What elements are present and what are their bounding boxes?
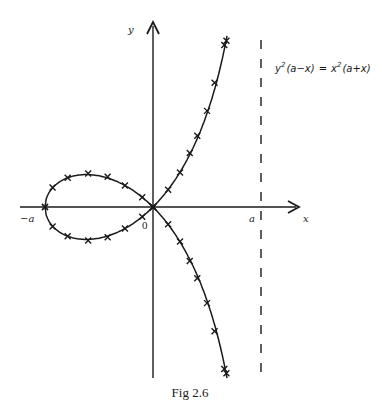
eq-rhs-exp: 2 [337, 61, 342, 69]
eq-rhs-factor: (a+x) [342, 63, 370, 74]
x-axis-label: x [303, 213, 309, 224]
curve-branch [45, 207, 153, 239]
curve-branch [153, 207, 227, 378]
figure-caption: Fig 2.6 [172, 385, 209, 400]
cross-marker-icon [139, 194, 145, 200]
pos-a-label: a [249, 213, 255, 224]
cross-marker-icon [165, 187, 171, 193]
cross-marker-icon [177, 239, 183, 245]
eq-equals: = [319, 63, 327, 74]
cross-marker-icon [177, 169, 183, 175]
curve-equation: y2(a−x)=x2(a+x) [274, 61, 371, 74]
cross-marker-icon [50, 223, 56, 229]
neg-a-label: −a [20, 213, 34, 224]
eq-lhs-exp: 2 [281, 61, 286, 69]
cross-marker-icon [122, 226, 128, 232]
origin-label: 0 [142, 219, 148, 231]
cross-marker-icon [85, 171, 91, 177]
cross-marker-icon [85, 237, 91, 243]
cross-marker-icon [50, 185, 56, 191]
eq-lhs-factor: (a−x) [286, 63, 314, 74]
curve-branch [153, 36, 227, 207]
cross-marker-icon [165, 221, 171, 227]
y-axis-label: y [127, 24, 134, 35]
curve-branch [45, 175, 153, 207]
strophoid-figure: y x 0 −a a y2(a−x)=x2(a+x) Fig 2.6 [0, 0, 382, 411]
cross-marker-icon [122, 182, 128, 188]
